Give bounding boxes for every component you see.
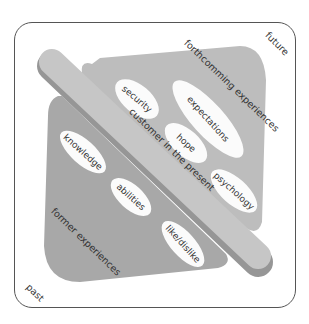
diagram-canvas: security expectations hope psychology kn…: [0, 0, 309, 324]
regions-svg: [0, 0, 309, 324]
